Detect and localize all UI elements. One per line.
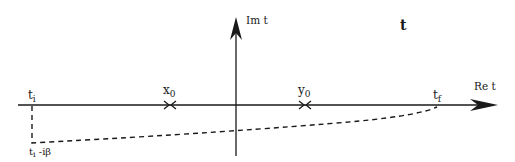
point-label-x-0: x0: [163, 83, 176, 99]
real-axis: [18, 99, 498, 111]
point-label-t-i-minus-ibeta: ti -iβ: [29, 146, 51, 159]
complex-t-plane-diagram: Im t t Re t ti x0 y0 tf ti -iβ: [0, 0, 515, 162]
imag-axis-label: Im t: [246, 14, 268, 26]
point-label-t-f: tf: [433, 88, 442, 104]
real-axis-label: Re t: [474, 80, 496, 92]
point-label-t-i: ti: [28, 88, 36, 104]
plane-title: t: [400, 17, 407, 33]
imaginary-axis: [230, 17, 242, 156]
dashed-contour-path: [32, 106, 437, 143]
point-label-y-0: y0: [297, 83, 311, 99]
